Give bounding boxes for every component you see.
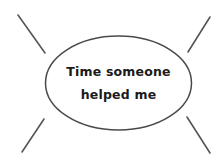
ray-top-left [18, 15, 45, 53]
bubble-label: Time someone helped me [45, 36, 192, 130]
ray-bottom-left [22, 119, 44, 152]
bubble-label-line-1: Time someone [66, 60, 171, 83]
bubble-label-line-2: helped me [81, 83, 157, 106]
